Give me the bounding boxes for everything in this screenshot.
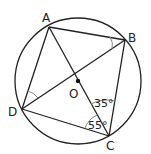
cyclic-quadrilateral-figure: A B C D O 35° 55° [0, 0, 151, 154]
label-o: O [69, 87, 78, 101]
label-a: A [42, 11, 51, 25]
angle-label-55: 55° [88, 119, 108, 132]
angle-label-35: 35° [94, 97, 114, 110]
side-bc [109, 40, 125, 136]
angle-arc-b [110, 37, 112, 49]
side-da [22, 27, 49, 109]
centre-point-o [76, 79, 80, 83]
label-c: C [106, 139, 114, 153]
label-d: D [8, 105, 17, 119]
label-b: B [128, 31, 136, 45]
diagram-canvas: A B C D O 35° 55° [0, 0, 151, 154]
angle-arc-d [28, 91, 38, 98]
